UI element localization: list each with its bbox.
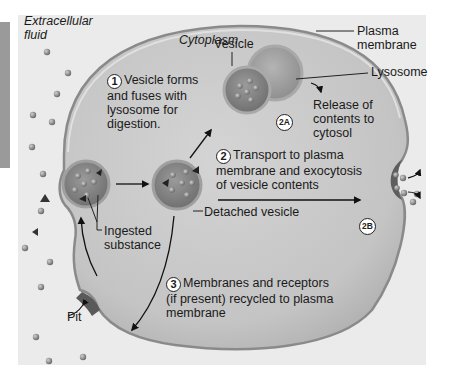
step-3-line-2: (if present) recycled to plasma: [166, 292, 333, 306]
step-2-line-1: Transport to plasma: [233, 148, 344, 162]
label-lysosome: Lysosome: [371, 65, 428, 79]
extracellular-line-1: Extracellular: [24, 14, 93, 28]
step-1-line-1: Vesicle forms: [124, 73, 198, 87]
ingested-line-1: Ingested: [104, 224, 161, 238]
badge-2b: 2B: [359, 218, 376, 235]
step-3-line-3: membrane: [166, 306, 333, 320]
step-2-line-3: of vesicle contents: [216, 178, 362, 192]
label-vesicle: Vesicle: [214, 37, 254, 51]
label-extracellular-fluid: Extracellular fluid: [24, 14, 93, 42]
release-line-1: Release of: [313, 98, 374, 112]
label-ingested-substance: Ingested substance: [104, 224, 161, 252]
label-plasma-membrane: Plasma membrane: [357, 24, 417, 52]
step-1-line-4: digestion.: [107, 117, 198, 131]
endocytosis-diagram: Extracellular fluid Cytoplasm Plasma mem…: [0, 0, 450, 383]
label-detached-vesicle: Detached vesicle: [204, 205, 299, 219]
step-3-line-1: Membranes and receptors: [183, 276, 329, 290]
step-1-line-2: and fuses with: [107, 89, 198, 103]
plasma-line-2: membrane: [357, 38, 417, 52]
step-2-text: 2Transport to plasma membrane and exocyt…: [216, 148, 362, 192]
step-3-text: 3Membranes and receptors (if present) re…: [166, 276, 333, 320]
step-2-number: 2: [216, 149, 231, 164]
step-1-text: 1Vesicle forms and fuses with lysosome f…: [107, 73, 198, 131]
side-strip: [0, 22, 10, 168]
badge-2a: 2A: [276, 114, 293, 131]
extracellular-line-2: fluid: [24, 28, 93, 42]
label-pit: Pit: [67, 310, 82, 324]
release-line-3: cytosol: [313, 126, 374, 140]
label-release-of-contents: Release of contents to cytosol: [313, 98, 374, 140]
step-1-line-3: lysosome for: [107, 103, 198, 117]
release-line-2: contents to: [313, 112, 374, 126]
step-2-line-2: membrane and exocytosis: [216, 164, 362, 178]
ingested-line-2: substance: [104, 238, 161, 252]
step-3-number: 3: [166, 277, 181, 292]
plasma-line-1: Plasma: [357, 24, 417, 38]
step-1-number: 1: [107, 74, 122, 89]
